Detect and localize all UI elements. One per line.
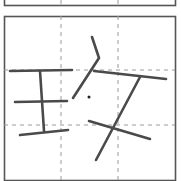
previous-cell-border xyxy=(5,0,176,6)
center-dot xyxy=(88,96,91,99)
stroke-right-falling xyxy=(89,121,150,139)
stroke-middle-horizontal xyxy=(15,101,67,102)
character-practice-diagram xyxy=(0,0,181,181)
grid-cell xyxy=(5,17,176,181)
practice-grid xyxy=(0,0,181,181)
stroke-horizontal xyxy=(94,71,166,79)
cell-border xyxy=(5,17,176,181)
dot-marker xyxy=(88,96,91,99)
previous-grid-cell xyxy=(5,0,176,6)
character-strokes xyxy=(10,37,166,160)
stroke-short-left-falling xyxy=(73,37,99,98)
